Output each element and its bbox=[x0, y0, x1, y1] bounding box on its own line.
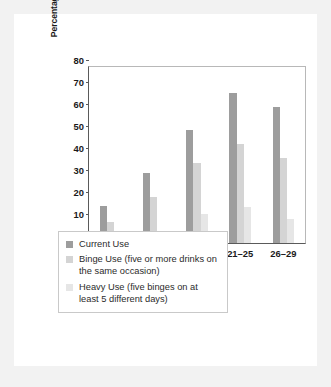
bar-group bbox=[143, 67, 165, 243]
legend-swatch-icon bbox=[66, 284, 73, 291]
y-tick-label: 40 bbox=[55, 143, 89, 155]
chart-legend: Current UseBinge Use (five or more drink… bbox=[58, 231, 228, 313]
bar bbox=[273, 107, 280, 243]
legend-label: Current Use bbox=[79, 238, 129, 250]
bar bbox=[244, 207, 251, 243]
legend-label: Heavy Use (five binges on at least 5 dif… bbox=[79, 281, 220, 305]
bar bbox=[237, 144, 244, 243]
legend-label: Binge Use (five or more drinks on the sa… bbox=[79, 253, 220, 277]
x-tick-label: 26–29 bbox=[255, 248, 311, 260]
y-axis-title: Percentages Using in Past Month bbox=[46, 0, 62, 63]
legend-swatch-icon bbox=[66, 256, 73, 263]
y-tick-label: 20 bbox=[55, 187, 89, 199]
y-tick-label: 30 bbox=[55, 165, 89, 177]
legend-item: Heavy Use (five binges on at least 5 dif… bbox=[66, 281, 220, 305]
bar-group bbox=[100, 67, 122, 243]
legend-item: Binge Use (five or more drinks on the sa… bbox=[66, 253, 220, 277]
bars-layer bbox=[89, 67, 305, 243]
y-tick-label: 70 bbox=[55, 77, 89, 89]
figure-card: Percentages Using in Past Month 01020304… bbox=[14, 14, 317, 366]
legend-swatch-icon bbox=[66, 241, 73, 248]
bar-group bbox=[273, 67, 295, 243]
bar bbox=[229, 93, 236, 243]
plot-area: Percentages Using in Past Month 01020304… bbox=[88, 66, 306, 244]
legend-item: Current Use bbox=[66, 238, 220, 250]
bar-group bbox=[186, 67, 208, 243]
y-tick-label: 60 bbox=[55, 99, 89, 111]
y-tick-label: 10 bbox=[55, 209, 89, 221]
bar bbox=[280, 158, 287, 243]
y-tick-label: 50 bbox=[55, 121, 89, 133]
y-tick-label: 80 bbox=[55, 55, 89, 67]
bar-group bbox=[229, 67, 251, 243]
bar bbox=[186, 130, 193, 243]
bar bbox=[287, 219, 294, 243]
